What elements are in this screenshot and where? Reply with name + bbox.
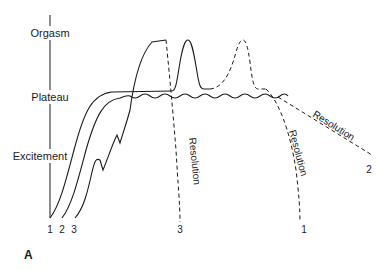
curve-1-second-orgasm-dashed (210, 40, 266, 89)
curve-2-start-label: 2 (59, 224, 65, 235)
curve-1-start-label: 1 (47, 224, 53, 235)
sexual-response-cycle-diagram: Orgasm Plateau Excitement 1 2 3 Resoluti… (0, 0, 389, 269)
phase-label-plateau: Plateau (31, 91, 68, 103)
curve-3-start-label: 3 (71, 224, 77, 235)
curve-1-end-label: 1 (301, 224, 307, 235)
panel-label: A (24, 248, 33, 262)
curve-3-resolution-dashed (166, 40, 180, 222)
curve-2-line (62, 94, 288, 218)
resolution-label-curve-3: Resolution (187, 137, 203, 185)
resolution-label-curve-1: Resolution (287, 129, 310, 178)
curve-3-end-label: 3 (177, 224, 183, 235)
resolution-label-curve-2: Resolution (311, 108, 357, 142)
phase-label-orgasm: Orgasm (30, 27, 69, 39)
curve-3-line (75, 40, 166, 218)
curve-2-end-label: 2 (366, 164, 372, 175)
phase-label-excitement: Excitement (13, 150, 67, 162)
